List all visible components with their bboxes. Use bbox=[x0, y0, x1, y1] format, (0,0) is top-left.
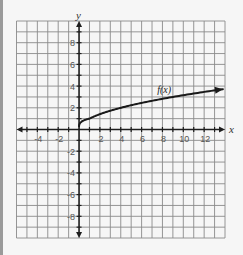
x-tick-label: 6 bbox=[140, 134, 145, 144]
y-tick-label: 4 bbox=[70, 82, 75, 92]
x-tick-label: 10 bbox=[179, 134, 189, 144]
function-label: f(x) bbox=[157, 84, 172, 96]
x-tick-label: 8 bbox=[161, 134, 166, 144]
x-tick-label: 12 bbox=[200, 134, 210, 144]
x-tick-labels: -4-224681012 bbox=[34, 134, 210, 144]
y-axis-up-arrow-icon bbox=[76, 21, 82, 27]
coordinate-plane: -4-224681012 8642-2-4-6-8 x y f(x) bbox=[0, 0, 243, 255]
y-tick-label: 6 bbox=[70, 60, 75, 70]
y-tick-label: -2 bbox=[67, 147, 75, 157]
x-tick-label: 4 bbox=[119, 134, 124, 144]
y-tick-label: -8 bbox=[67, 212, 75, 222]
x-axis-left-arrow-icon bbox=[17, 127, 23, 133]
x-axis-label: x bbox=[228, 123, 234, 135]
y-tick-label: 2 bbox=[70, 103, 75, 113]
x-tick-label: -4 bbox=[34, 134, 42, 144]
function-curve bbox=[79, 87, 223, 126]
y-axis-down-arrow-icon bbox=[76, 232, 82, 238]
x-tick-label: -2 bbox=[55, 134, 63, 144]
y-tick-label: -6 bbox=[67, 190, 75, 200]
y-tick-label: 8 bbox=[70, 38, 75, 48]
y-tick-label: -4 bbox=[67, 168, 75, 178]
y-axis-label: y bbox=[75, 9, 81, 21]
x-axis-right-arrow-icon bbox=[219, 127, 225, 133]
x-tick-label: 2 bbox=[98, 134, 103, 144]
